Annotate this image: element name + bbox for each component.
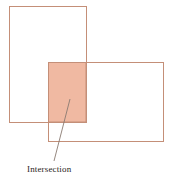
diagram-canvas: Intersection [0, 0, 171, 183]
intersection-diagram: Intersection [0, 0, 171, 183]
intersection-region-fill [48, 62, 86, 122]
intersection-label: Intersection [27, 164, 72, 174]
